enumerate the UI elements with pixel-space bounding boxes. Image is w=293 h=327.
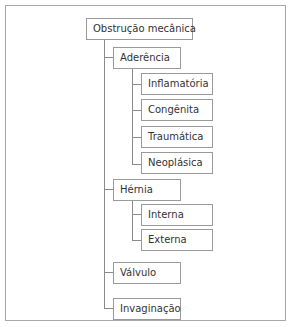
node-invaginacao: Invaginação bbox=[113, 298, 181, 320]
connector-invaginacao bbox=[104, 308, 113, 309]
node-inflamatoria: Inflamatória bbox=[141, 73, 213, 95]
connector-aderencia bbox=[104, 57, 113, 58]
connector-traumatica bbox=[132, 137, 141, 138]
node-externa: Externa bbox=[141, 229, 213, 251]
node-hernia: Hérnia bbox=[113, 179, 181, 201]
connector-inflamatoria bbox=[132, 84, 141, 85]
node-aderencia: Aderência bbox=[113, 47, 181, 69]
connector-externa bbox=[132, 240, 141, 241]
connector-valvulo bbox=[104, 272, 113, 273]
node-neoplasica: Neoplásica bbox=[141, 152, 213, 174]
connector-interna bbox=[132, 214, 141, 215]
connector-neoplasica bbox=[132, 164, 141, 165]
node-valvulo: Válvulo bbox=[113, 262, 181, 284]
node-congenita: Congênita bbox=[141, 99, 213, 121]
connector-hernia-branch bbox=[132, 201, 133, 241]
connector-trunk bbox=[104, 40, 105, 309]
node-root: Obstrução mecânica bbox=[86, 18, 193, 40]
node-traumatica: Traumática bbox=[141, 126, 213, 148]
connector-congenita bbox=[132, 110, 141, 111]
connector-hernia bbox=[104, 189, 113, 190]
node-interna: Interna bbox=[141, 204, 213, 226]
